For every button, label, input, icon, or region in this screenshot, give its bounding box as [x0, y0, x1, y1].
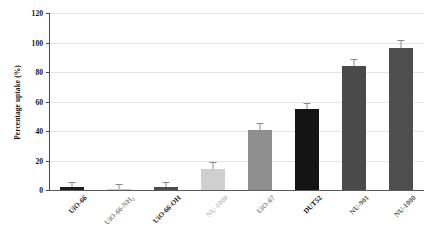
- bar-UiO-67: [248, 130, 272, 190]
- y-tick-label-100: 100: [3, 38, 43, 47]
- subscript: 2: [130, 196, 136, 202]
- error-bar: [306, 104, 307, 109]
- plot-area: 120100806040200: [49, 13, 424, 190]
- x-axis-label-UiO-67: UiO-67: [255, 194, 276, 215]
- x-axis-label-DUT52: DUT52: [302, 194, 323, 215]
- bar-UiO-66-OH: [154, 187, 178, 190]
- bar-NU-1000: [389, 48, 413, 190]
- bar-UiO-66-NH2: [107, 189, 131, 191]
- bar-NU-1000: [201, 169, 225, 190]
- x-axis-label-NU-901: NU-901: [348, 194, 370, 216]
- bar-slot: [237, 13, 284, 190]
- bar-DUT52: [295, 109, 319, 190]
- x-axis-line: [49, 190, 424, 191]
- error-bar-cap: [397, 40, 404, 41]
- error-bar: [119, 185, 120, 189]
- bar-UiO-66: [60, 187, 84, 190]
- bar-NU-901: [342, 66, 366, 190]
- error-bar-cap: [163, 182, 170, 183]
- error-bar: [400, 41, 401, 48]
- bar-slot: [96, 13, 143, 190]
- error-bar: [72, 183, 73, 187]
- y-tick-label-120: 120: [3, 9, 43, 18]
- x-axis-label-UiO-66-NH2: UiO-66-NH2: [103, 194, 136, 227]
- x-axis-label-UiO-66: UiO-66: [68, 194, 89, 215]
- bar-slot: [377, 13, 424, 190]
- error-bar-cap: [303, 103, 310, 104]
- error-bar: [259, 124, 260, 130]
- bar-chart: Percentage uptake (%) 120100806040200 Ui…: [0, 0, 429, 236]
- bar-slot: [143, 13, 190, 190]
- error-bar: [353, 60, 354, 66]
- error-bar-cap: [210, 162, 217, 163]
- y-tick-label-40: 40: [3, 127, 43, 136]
- y-tick-label-80: 80: [3, 68, 43, 77]
- error-bar: [166, 183, 167, 187]
- bar-slot: [330, 13, 377, 190]
- x-axis-label-NU-1000: NU-1000: [205, 194, 230, 219]
- error-bar: [213, 163, 214, 169]
- y-tick-label-20: 20: [3, 156, 43, 165]
- error-bar-cap: [350, 59, 357, 60]
- x-axis-label-UiO-66-OH: UiO-66-OH: [152, 194, 183, 225]
- error-bar-cap: [256, 123, 263, 124]
- y-tick-label-60: 60: [3, 97, 43, 106]
- error-bar-cap: [116, 184, 123, 185]
- bar-slot: [283, 13, 330, 190]
- x-axis-label-NU-1000: NU-1000: [392, 194, 417, 219]
- error-bar-cap: [69, 182, 76, 183]
- bar-slot: [190, 13, 237, 190]
- bar-slot: [49, 13, 96, 190]
- y-tick-label-0: 0: [3, 186, 43, 195]
